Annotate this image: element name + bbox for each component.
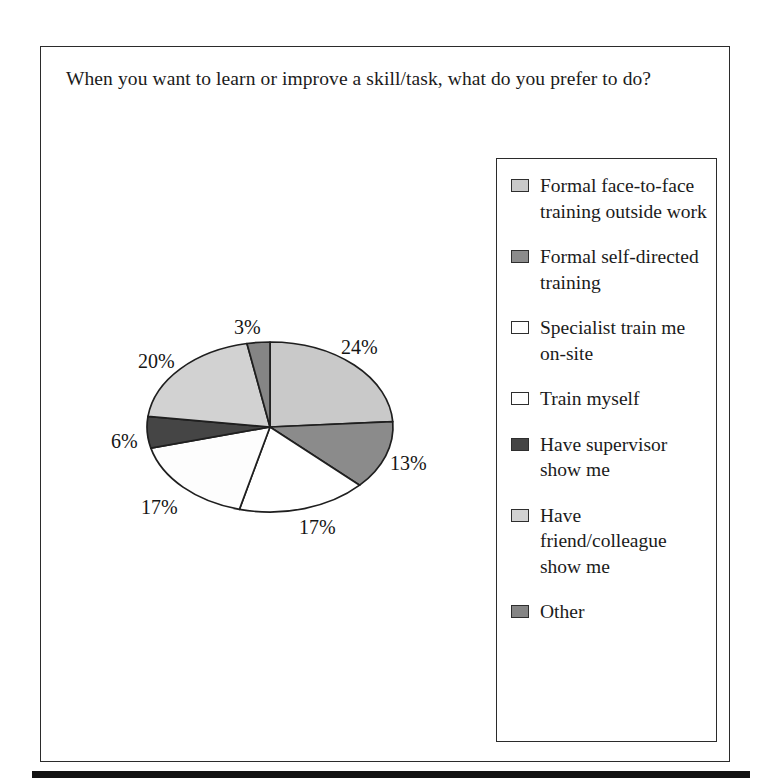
pie-slice-label: 13%	[390, 452, 427, 474]
legend-swatch	[511, 179, 529, 192]
legend-item-label: Formal self-directed training	[540, 244, 707, 295]
legend-item-label: Train myself	[540, 386, 640, 412]
pie-slices	[147, 342, 393, 512]
pie-chart	[95, 300, 455, 560]
legend-list: Formal face-to-face training outside wor…	[511, 173, 707, 645]
legend-swatch	[511, 321, 529, 334]
legend-item-formal-face-to-face: Formal face-to-face training outside wor…	[511, 173, 707, 224]
legend-swatch	[511, 250, 529, 263]
legend-item-label: Specialist train me on-site	[540, 315, 707, 366]
page-title: When you want to learn or improve a skil…	[66, 66, 706, 92]
legend-swatch	[511, 438, 529, 451]
legend-item-friend-colleague: Have friend/colleague show me	[511, 503, 707, 580]
legend-swatch	[511, 392, 529, 405]
legend-item-label: Have friend/colleague show me	[540, 503, 707, 580]
legend-item-formal-self-directed: Formal self-directed training	[511, 244, 707, 295]
pie-slice-label: 3%	[234, 316, 261, 338]
pie-slice-label: 17%	[141, 496, 178, 518]
legend-item-other: Other	[511, 599, 707, 625]
legend-swatch	[511, 509, 529, 522]
pie-slice-label: 17%	[299, 516, 336, 538]
legend-item-label: Have supervisor show me	[540, 432, 707, 483]
legend-swatch	[511, 605, 529, 618]
pie-slice-label: 6%	[111, 430, 138, 452]
legend-item-label: Other	[540, 599, 584, 625]
pie-slice-label: 24%	[341, 336, 378, 358]
legend-item-specialist-on-site: Specialist train me on-site	[511, 315, 707, 366]
legend-item-train-myself: Train myself	[511, 386, 707, 412]
pie-slice-label: 20%	[138, 350, 175, 372]
pie-chart-svg	[95, 300, 455, 560]
legend-item-label: Formal face-to-face training outside wor…	[540, 173, 707, 224]
legend: Formal face-to-face training outside wor…	[496, 158, 717, 742]
bottom-rule	[32, 771, 750, 778]
legend-item-supervisor-show-me: Have supervisor show me	[511, 432, 707, 483]
